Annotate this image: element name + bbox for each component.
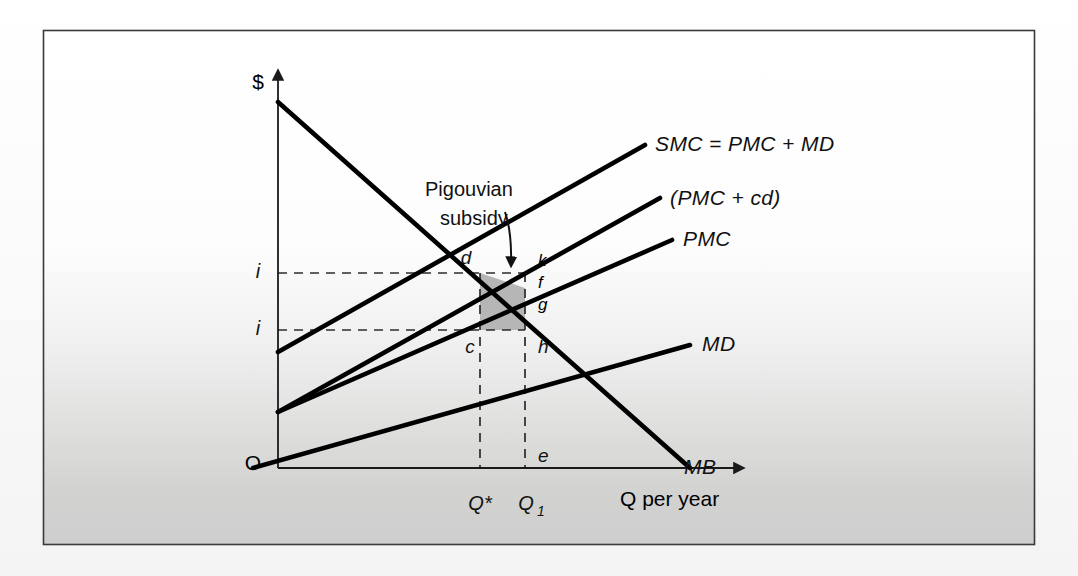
price-tick-i-high: i (256, 260, 261, 282)
quantity-tick-q1-subscript: 1 (537, 503, 545, 519)
point-label-d: d (461, 247, 473, 268)
curve-label-mb: MB (684, 455, 716, 478)
curve-label-pmc-plus-cd: (PMC + cd) (670, 186, 781, 209)
point-label-e: e (538, 445, 549, 466)
pigouvian-subsidy-label-line1: Pigouvian (425, 178, 513, 200)
curve-label-smc: SMC = PMC + MD (655, 132, 834, 155)
curve-label-pmc: PMC (683, 227, 731, 250)
y-axis-label: $ (252, 70, 264, 93)
quantity-tick-q1: Q (518, 492, 534, 514)
curve-label-md: MD (702, 332, 735, 355)
price-tick-i-low: i (256, 317, 261, 339)
quantity-tick-q-star: Q* (468, 492, 493, 514)
pigouvian-subsidy-label-line2: subsidy (440, 207, 508, 229)
figure-container: $ O Q per year i i Q* Q 1 SMC = PMC + MD… (0, 0, 1078, 576)
point-label-h: h (538, 336, 549, 357)
x-axis-label: Q per year (620, 487, 719, 510)
point-label-c: c (465, 336, 475, 357)
economics-diagram-svg: $ O Q per year i i Q* Q 1 SMC = PMC + MD… (0, 0, 1078, 576)
point-label-g: g (538, 295, 548, 314)
origin-label: O (245, 451, 261, 474)
